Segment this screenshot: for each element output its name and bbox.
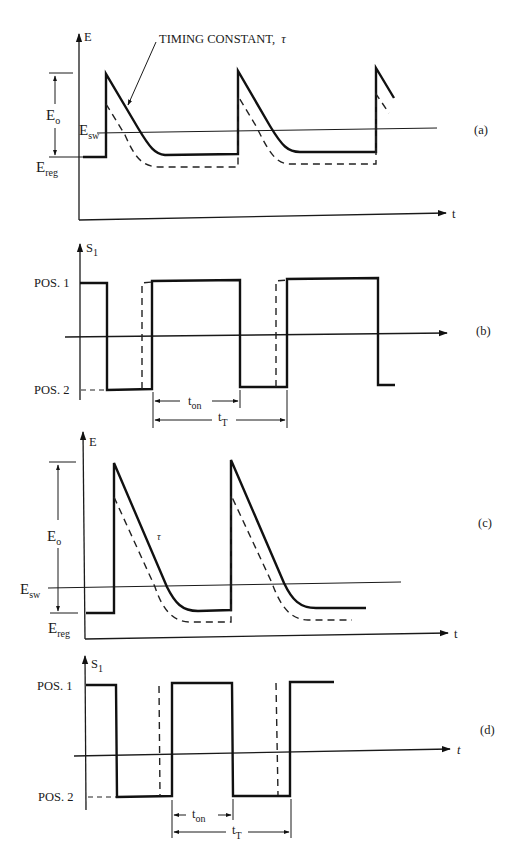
panel-label-a: (a) — [474, 123, 488, 137]
panel-c: E t Eo Esw Ereg τ (c) — [20, 432, 492, 641]
ereg-label-a: Ereg — [36, 159, 58, 178]
x-axis-c — [85, 633, 448, 639]
esw-line-a — [97, 128, 437, 133]
tt-label-d: tT — [232, 823, 242, 841]
y-axis-label-c: E — [89, 435, 97, 449]
panel-b: S1 POS. 1 POS. 2 ton tT (b) — [34, 241, 491, 428]
y-axis-c — [83, 432, 85, 639]
switch-waveform-d — [86, 682, 334, 797]
pos1-label-d: POS. 1 — [37, 679, 72, 693]
ton-label-d: ton — [192, 807, 205, 824]
switch-waveform-dashed-b2 — [276, 280, 287, 387]
y-axis-label-d: S1 — [91, 657, 103, 674]
tt-label-b: tT — [218, 410, 228, 428]
y-axis-d — [85, 656, 86, 810]
pos2-label-b: POS. 2 — [34, 383, 69, 397]
x-axis-d — [74, 749, 450, 756]
y-axis-label-a: E — [84, 30, 92, 44]
x-axis-label-d: t — [457, 743, 461, 757]
voltage-waveform-c — [86, 460, 366, 613]
dashed-marker-d1 — [159, 686, 160, 796]
esw-label-a: Esw — [79, 122, 100, 141]
dashed-marker-d2 — [276, 683, 278, 795]
panel-label-c: (c) — [478, 516, 492, 530]
panel-a: E t Eo Esw Ereg TIMING CONSTANT,τ (a) — [36, 30, 488, 221]
esw-label-c: Esw — [20, 581, 41, 600]
panel-label-d: (d) — [480, 723, 495, 737]
panel-d: S1 t POS. 1 POS. 2 ton tT (d) — [37, 656, 495, 841]
tau-label-c: τ — [157, 531, 161, 542]
voltage-waveform-dashed-c — [114, 495, 352, 622]
x-axis-label-c: t — [454, 627, 458, 641]
timing-constant-label: TIMING CONSTANT,τ — [159, 32, 286, 46]
timing-diagram: E t Eo Esw Ereg TIMING CONSTANT,τ (a) S1… — [0, 0, 520, 862]
pos2-label-d: POS. 2 — [38, 790, 73, 804]
x-axis-b — [65, 333, 447, 337]
x-axis-label-a: t — [452, 207, 456, 221]
panel-label-b: (b) — [476, 324, 491, 338]
pos1-label-b: POS. 1 — [34, 276, 69, 290]
ton-label-b: ton — [188, 394, 201, 411]
timing-constant-pointer — [128, 42, 156, 105]
x-axis-a — [79, 213, 446, 220]
esw-line-c — [48, 582, 401, 588]
eo-label-a: Eo — [46, 107, 60, 126]
eo-label-c: Eo — [47, 528, 61, 547]
y-axis-label-b: S1 — [86, 241, 98, 258]
ereg-label-c: Ereg — [48, 620, 70, 639]
